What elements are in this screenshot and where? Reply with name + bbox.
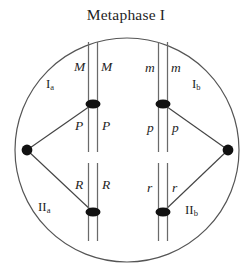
allele-label-R-right: R bbox=[102, 178, 110, 192]
region-label-Ia: Ia bbox=[46, 77, 54, 90]
allele-label-P-right: P bbox=[102, 119, 110, 133]
region-label-Ib-sub: b bbox=[196, 82, 200, 92]
allele-label-R-left: R bbox=[75, 178, 83, 192]
centromere-IIa bbox=[86, 207, 101, 216]
region-label-Ib: Ib bbox=[192, 77, 201, 90]
region-label-IIb: IIb bbox=[185, 203, 198, 216]
region-label-IIb-sub: b bbox=[194, 208, 198, 218]
cell-membrane-circle bbox=[15, 38, 239, 262]
region-label-IIa: IIa bbox=[38, 200, 50, 213]
centromere-Ib bbox=[156, 99, 171, 108]
allele-label-r-right: r bbox=[172, 181, 177, 195]
centromere-Ia bbox=[86, 99, 101, 108]
allele-label-m-right: m bbox=[171, 61, 181, 75]
spindle-pole-left bbox=[22, 145, 33, 156]
region-label-Ia-sub: a bbox=[50, 82, 54, 92]
region-label-IIa-sub: a bbox=[47, 205, 51, 215]
region-label-IIb-main: II bbox=[185, 202, 194, 217]
centromere-IIb bbox=[156, 207, 171, 216]
spindle-pole-right bbox=[223, 145, 234, 156]
allele-label-m-left: m bbox=[145, 61, 155, 75]
allele-label-M-left: M bbox=[74, 60, 85, 74]
allele-label-M-right: M bbox=[101, 60, 112, 74]
region-label-IIa-main: II bbox=[38, 199, 47, 214]
allele-label-r-left: r bbox=[147, 181, 152, 195]
diagram-canvas: Metaphase I M M m m P P bbox=[0, 0, 252, 276]
cell-figure bbox=[0, 0, 252, 276]
allele-label-p-right: p bbox=[172, 121, 179, 135]
allele-label-P-left: P bbox=[75, 119, 83, 133]
allele-label-p-left: p bbox=[147, 121, 154, 135]
